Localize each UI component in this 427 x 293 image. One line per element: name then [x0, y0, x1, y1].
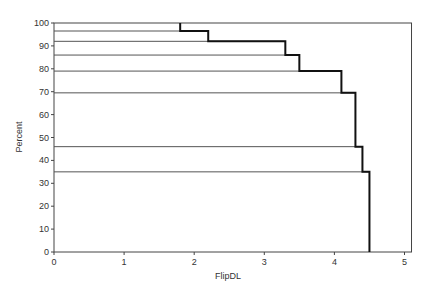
y-axis-ticks: 0102030405060708090100	[34, 18, 54, 257]
y-tick-label: 100	[34, 18, 49, 28]
x-axis-title: FlipDL	[215, 271, 241, 281]
plot-frame	[54, 23, 412, 252]
y-tick-label: 10	[39, 224, 49, 234]
y-tick-label: 90	[39, 41, 49, 51]
x-axis-ticks: 012345	[51, 252, 407, 267]
step-series	[180, 23, 369, 252]
plot-border	[54, 23, 412, 252]
reference-lines	[54, 31, 369, 172]
y-tick-label: 20	[39, 201, 49, 211]
x-tick-label: 0	[51, 257, 56, 267]
y-tick-label: 70	[39, 87, 49, 97]
y-tick-label: 40	[39, 155, 49, 165]
step-chart: 0102030405060708090100 012345 FlipDL Per…	[0, 0, 427, 293]
x-tick-label: 1	[122, 257, 127, 267]
x-tick-label: 3	[262, 257, 267, 267]
y-tick-label: 30	[39, 178, 49, 188]
y-axis-title: Percent	[14, 121, 24, 153]
x-tick-label: 4	[332, 257, 337, 267]
x-tick-label: 5	[402, 257, 407, 267]
y-tick-label: 50	[39, 133, 49, 143]
y-tick-label: 80	[39, 64, 49, 74]
y-tick-label: 0	[44, 247, 49, 257]
step-line	[180, 23, 369, 252]
x-tick-label: 2	[192, 257, 197, 267]
y-tick-label: 60	[39, 110, 49, 120]
